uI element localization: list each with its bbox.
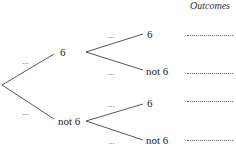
- node-not6-6: 6: [147, 97, 153, 109]
- node-first-6: 6: [60, 46, 66, 58]
- node-6-6: 6: [147, 28, 153, 40]
- node-not6-not6: not 6: [146, 134, 168, 146]
- outcome-not6-6[interactable]: [187, 101, 233, 102]
- node-6-not6: not 6: [146, 65, 168, 77]
- outcome-6-not6[interactable]: [187, 73, 233, 74]
- prob-6-not6[interactable]: ...: [108, 68, 115, 77]
- prob-not6-not6[interactable]: ...: [108, 137, 115, 146]
- prob-first-6[interactable]: ...: [22, 57, 29, 66]
- outcome-not6-not6[interactable]: [187, 140, 233, 141]
- outcomes-header: Outcomes: [190, 0, 230, 11]
- prob-first-not6[interactable]: ...: [22, 108, 29, 117]
- prob-not6-6[interactable]: ...: [108, 100, 115, 109]
- prob-6-6[interactable]: ...: [108, 31, 115, 40]
- outcome-6-6[interactable]: [187, 35, 233, 36]
- node-first-not6: not 6: [58, 115, 80, 127]
- tree-branches: [0, 0, 236, 152]
